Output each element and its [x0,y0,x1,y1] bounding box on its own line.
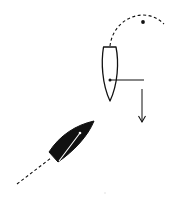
dashed-arc-track [110,15,164,46]
dashed-wake [17,158,51,184]
white-boat-hull [102,47,117,101]
black-boat-mast-dot [79,132,82,135]
drift-arrow-icon [139,89,146,122]
mark-dot [141,20,145,24]
faint-speck [104,192,106,194]
sailing-diagram [0,0,179,199]
black-boat-hull [49,121,94,162]
